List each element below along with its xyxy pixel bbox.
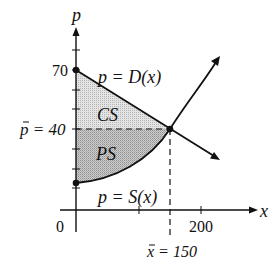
y-tick-label-70: 70	[52, 62, 68, 79]
equilibrium-price-label: p = 40	[19, 120, 66, 139]
equilibrium-quantity-label: x = 150	[146, 243, 197, 260]
y-axis-label: p	[70, 5, 81, 25]
supply-intercept-point	[73, 180, 80, 187]
x-tick-label-200: 200	[189, 218, 213, 235]
producer-surplus-region	[76, 129, 170, 183]
demand-intercept-point	[73, 67, 80, 74]
x-axis-arrow-icon	[249, 207, 258, 214]
surplus-diagram: p x 70 0 200 p = D(x) p = S(x) CS PS p =…	[0, 0, 277, 276]
demand-curve-label: p = D(x)	[96, 67, 161, 88]
producer-surplus-label: PS	[95, 144, 116, 164]
consumer-surplus-label: CS	[97, 105, 118, 125]
demand-arrow-icon	[210, 152, 220, 160]
supply-curve-label: p = S(x)	[96, 187, 157, 208]
y-axis-arrow-icon	[73, 27, 80, 36]
origin-label: 0	[56, 218, 64, 235]
x-axis-label: x	[259, 201, 268, 221]
equilibrium-point	[167, 126, 174, 133]
